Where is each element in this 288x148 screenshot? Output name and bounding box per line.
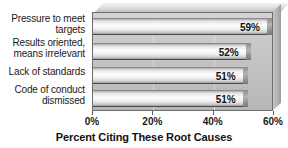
bar-end-cap xyxy=(267,18,272,35)
category-label-line: targets xyxy=(0,24,85,35)
x-axis-tick-label: 20% xyxy=(142,116,162,127)
plot-frame-top-face xyxy=(95,3,288,12)
bar-row: 51% xyxy=(93,90,273,107)
bar-value-label: 59% xyxy=(240,21,260,32)
x-axis-tick-mark xyxy=(213,111,214,115)
category-label-lack-of-standards: Lack of standards xyxy=(0,66,85,77)
x-axis-tick-label: 60% xyxy=(263,116,283,127)
x-axis-tick-mark xyxy=(273,111,274,115)
x-axis-tick-mark xyxy=(152,111,153,115)
x-axis-title: Percent Citing These Root Causes xyxy=(0,131,288,143)
category-label-line: dismissed xyxy=(0,95,85,106)
bar-row: 59% xyxy=(93,18,273,35)
x-axis-tick-mark xyxy=(92,111,93,115)
category-label-line: Code of conduct xyxy=(0,84,85,95)
bar-row: 52% xyxy=(93,43,273,60)
category-label-line: Lack of standards xyxy=(0,66,85,77)
bar-value-label: 51% xyxy=(216,93,236,104)
category-label-line: Pressure to meet xyxy=(0,13,85,24)
category-label-results-oriented-means-irrelevant: Results oriented, means irrelevant xyxy=(0,37,85,59)
x-axis-tick-label: 0% xyxy=(85,116,99,127)
bar-chart: Pressure to meet targets Results oriente… xyxy=(0,0,288,148)
x-axis-tick-label: 40% xyxy=(203,116,223,127)
bar-row: 51% xyxy=(93,67,273,84)
category-label-line: means irrelevant xyxy=(0,48,85,59)
bar-value-label: 51% xyxy=(216,70,236,81)
bar-value-label: 52% xyxy=(219,46,239,57)
category-label-code-of-conduct-dismissed: Code of conduct dismissed xyxy=(0,84,85,106)
bar-end-cap xyxy=(246,43,251,60)
bar-end-cap xyxy=(243,90,248,107)
plot-area: 59%52%51%51% xyxy=(92,12,273,111)
plot-frame-right-face xyxy=(272,4,281,111)
bar-end-cap xyxy=(243,67,248,84)
category-label-line: Results oriented, xyxy=(0,37,85,48)
category-axis-labels: Pressure to meet targets Results oriente… xyxy=(0,11,88,107)
category-label-pressure-to-meet-targets: Pressure to meet targets xyxy=(0,13,85,35)
